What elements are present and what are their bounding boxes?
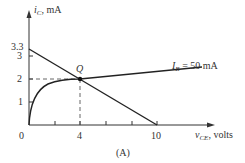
x-tick-label-0: 0 xyxy=(19,131,24,141)
figure-caption: (A) xyxy=(116,148,130,158)
q-point-marker xyxy=(78,77,82,81)
x-axis-label: vCE, volts xyxy=(195,130,233,142)
y-tick-label-2: 2 xyxy=(17,74,22,84)
y-tick-label-1: 1 xyxy=(18,97,23,107)
y-axis-arrow-icon xyxy=(27,10,32,18)
q-point-label: Q xyxy=(76,64,83,74)
y-axis-label: iC, mA xyxy=(34,5,61,17)
y-tick-label-3: 3 xyxy=(17,51,22,61)
ib-curve-label: IB = 50 mA xyxy=(172,61,218,73)
ib-characteristic-curve xyxy=(29,67,202,125)
x-tick-marks xyxy=(55,121,157,125)
x-tick-label-10: 10 xyxy=(151,131,161,141)
x-axis-arrow-icon xyxy=(207,123,215,128)
x-tick-label-4: 4 xyxy=(77,131,82,141)
load-line xyxy=(29,49,157,125)
